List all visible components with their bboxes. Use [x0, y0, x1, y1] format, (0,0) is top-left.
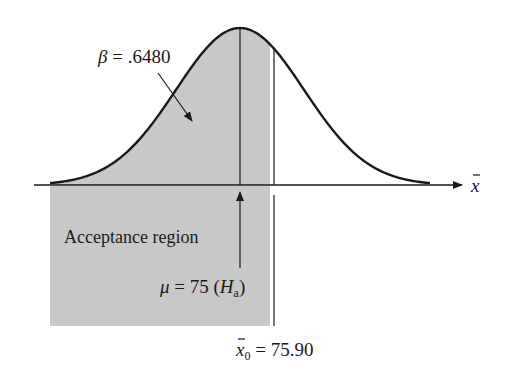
critical-label: x0 = 75.90	[235, 339, 313, 363]
mean-label: μ = 75 (Ha)	[159, 276, 245, 300]
beta-label: β = .6480	[97, 46, 170, 67]
region-label: Acceptance region	[64, 227, 198, 247]
acceptance-region-shade	[50, 186, 270, 326]
axis-label: x	[470, 175, 480, 196]
beta-diagram: β = .6480 Acceptance region μ = 75 (Ha) …	[0, 0, 505, 376]
